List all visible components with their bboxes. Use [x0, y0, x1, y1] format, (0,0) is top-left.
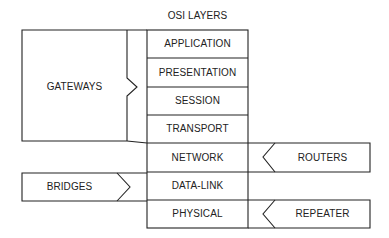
layer-physical: PHYSICAL — [147, 208, 248, 220]
gateways-label: GATEWAYS — [22, 81, 127, 93]
diagram-lines — [0, 0, 389, 238]
gateways-chevron — [127, 30, 137, 141]
bridges-chevron — [117, 173, 130, 201]
routers-chevron — [263, 143, 275, 172]
layer-network: NETWORK — [147, 152, 248, 164]
bridges-label: BRIDGES — [22, 181, 117, 193]
layer-application: APPLICATION — [147, 38, 248, 50]
osi-diagram: OSI LAYERS APPLICATION PRESENTATION SESS… — [0, 0, 389, 238]
routers-label: ROUTERS — [275, 152, 370, 164]
layer-session: SESSION — [147, 95, 248, 107]
layer-data-link: DATA-LINK — [147, 180, 248, 192]
repeater-chevron — [263, 200, 275, 228]
diagram-title: OSI LAYERS — [147, 10, 248, 22]
layer-transport: TRANSPORT — [147, 123, 248, 135]
repeater-label: REPEATER — [275, 208, 370, 220]
layer-presentation: PRESENTATION — [147, 67, 248, 79]
